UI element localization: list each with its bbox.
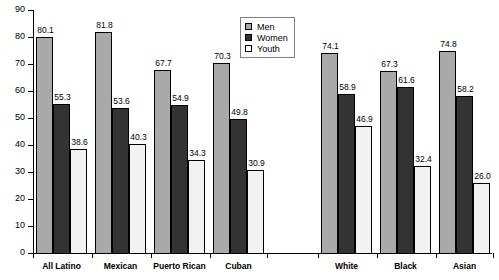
bar-black-men <box>380 71 397 253</box>
y-tick-60 <box>28 91 33 92</box>
x-tick-3 <box>210 253 211 258</box>
bar-value-label-asian-youth: 26.0 <box>471 172 494 181</box>
legend-label-men: Men <box>257 22 275 32</box>
bar-value-label-black-youth: 32.4 <box>412 155 435 164</box>
bar-cuban-men <box>213 63 230 253</box>
bar-mexican-youth <box>129 144 146 253</box>
bar-black-youth <box>414 166 431 253</box>
y-tick-10 <box>28 226 33 227</box>
bar-value-label-black-men: 67.3 <box>378 60 401 69</box>
bar-all-latino-men <box>36 37 53 253</box>
legend-swatch-men-icon <box>245 23 252 30</box>
bar-value-label-cuban-men: 70.3 <box>211 52 234 61</box>
y-tick-20 <box>28 199 33 200</box>
bar-value-label-white-women: 58.9 <box>336 83 359 92</box>
bar-value-label-mexican-men: 81.8 <box>93 21 116 30</box>
group-label-cuban: Cuban <box>191 261 286 271</box>
bar-value-label-all-latino-youth: 38.6 <box>68 138 91 147</box>
bar-asian-men <box>439 51 456 253</box>
bar-value-label-mexican-youth: 40.3 <box>127 133 150 142</box>
bar-value-label-cuban-women: 49.8 <box>228 108 251 117</box>
x-tick-2 <box>151 253 152 258</box>
bar-value-label-white-men: 74.1 <box>319 42 342 51</box>
y-tick-label-90: 90 <box>0 5 25 14</box>
y-tick-label-70: 70 <box>0 59 25 68</box>
legend-item-women: Women <box>245 32 288 43</box>
bar-value-label-cuban-youth: 30.9 <box>245 159 268 168</box>
bar-value-label-asian-women: 58.2 <box>454 85 477 94</box>
x-tick-5 <box>318 253 319 258</box>
bar-value-label-puerto-rican-youth: 34.3 <box>186 149 209 158</box>
bar-mexican-men <box>95 32 112 253</box>
bar-value-label-black-women: 61.6 <box>395 76 418 85</box>
bar-mexican-women <box>112 108 129 253</box>
x-tick-6 <box>377 253 378 258</box>
chart-legend: Men Women Youth <box>240 17 295 58</box>
legend-swatch-youth-icon <box>245 45 252 52</box>
bar-value-label-all-latino-women: 55.3 <box>51 93 74 102</box>
x-tick-4 <box>267 253 268 258</box>
x-tick-8 <box>493 253 494 258</box>
x-tick-0 <box>33 253 34 258</box>
bar-white-youth <box>355 126 372 253</box>
bar-value-label-asian-men: 74.8 <box>437 40 460 49</box>
bar-all-latino-women <box>53 104 70 253</box>
x-axis-line <box>33 253 492 254</box>
y-tick-70 <box>28 64 33 65</box>
legend-item-youth: Youth <box>245 43 288 54</box>
bar-value-label-all-latino-men: 80.1 <box>34 26 57 35</box>
y-tick-label-50: 50 <box>0 113 25 122</box>
bar-value-label-mexican-women: 53.6 <box>110 97 133 106</box>
legend-swatch-women-icon <box>245 34 252 41</box>
y-tick-label-80: 80 <box>0 32 25 41</box>
legend-item-men: Men <box>245 21 288 32</box>
group-label-asian: Asian <box>417 261 499 271</box>
y-tick-label-60: 60 <box>0 86 25 95</box>
bar-value-label-puerto-rican-men: 67.7 <box>152 59 175 68</box>
bar-puerto-rican-women <box>171 105 188 253</box>
y-tick-label-10: 10 <box>0 221 25 230</box>
bar-black-women <box>397 87 414 253</box>
y-tick-label-30: 30 <box>0 167 25 176</box>
y-tick-50 <box>28 118 33 119</box>
bar-cuban-women <box>230 119 247 253</box>
y-tick-label-40: 40 <box>0 140 25 149</box>
bar-value-label-puerto-rican-women: 54.9 <box>169 94 192 103</box>
x-tick-7 <box>436 253 437 258</box>
y-tick-90 <box>28 10 33 11</box>
bar-cuban-youth <box>247 170 264 253</box>
y-axis-line <box>33 10 34 254</box>
y-tick-40 <box>28 145 33 146</box>
y-tick-80 <box>28 37 33 38</box>
bar-asian-youth <box>473 183 490 253</box>
y-tick-label-0: 0 <box>0 248 25 257</box>
bar-chart: 0102030405060708090 80.155.338.681.853.6… <box>0 0 499 280</box>
bar-puerto-rican-youth <box>188 160 205 253</box>
y-tick-30 <box>28 172 33 173</box>
y-tick-label-20: 20 <box>0 194 25 203</box>
bar-value-label-white-youth: 46.9 <box>353 115 376 124</box>
bar-all-latino-youth <box>70 149 87 253</box>
legend-label-youth: Youth <box>257 44 280 54</box>
legend-label-women: Women <box>257 33 288 43</box>
x-tick-1 <box>92 253 93 258</box>
